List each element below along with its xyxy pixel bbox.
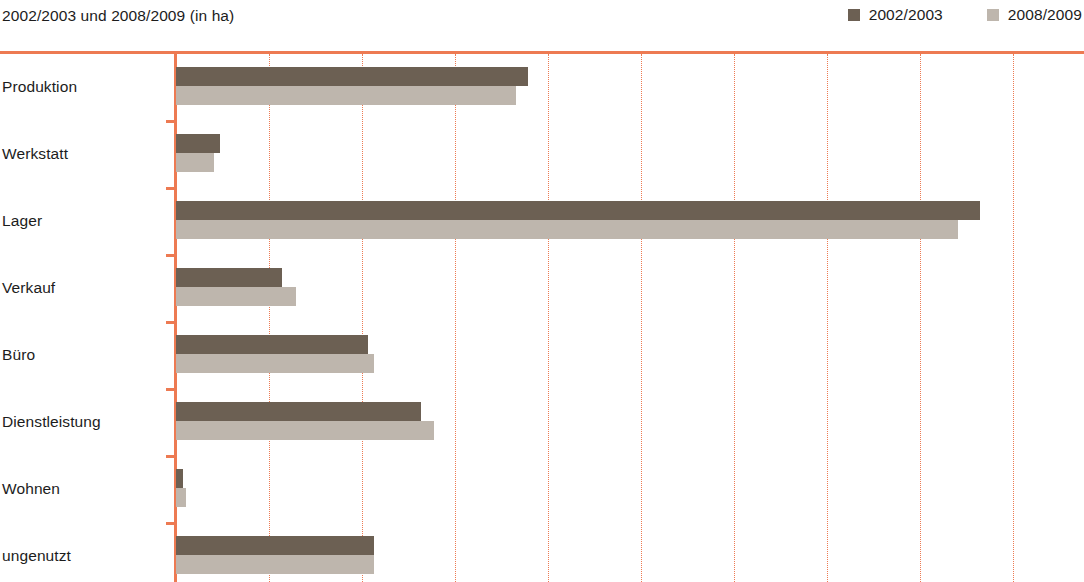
axis-tick [166,522,177,525]
legend-label: 2008/2009 [1008,6,1082,24]
category-label-produktion: Produktion [2,78,77,96]
gridline-8 [920,54,921,582]
gridline-4 [548,54,549,582]
legend-item-2008-2009[interactable]: 2008/2009 [987,6,1082,24]
bar-lager-2008[interactable] [176,220,958,239]
legend-label: 2002/2003 [869,6,943,24]
category-label-wohnen: Wohnen [2,480,60,498]
gridline-9 [1013,54,1014,582]
chart-container: 2002/2003 und 2008/2009 (in ha) 2002/200… [0,0,1084,582]
gridline-7 [827,54,828,582]
axis-tick [166,254,177,257]
gridline-5 [641,54,642,582]
chart-legend: 2002/2003 2008/2009 [848,6,1082,24]
plot-area: Produktion Werkstatt Lager Verkauf Büro … [0,54,1084,582]
axis-tick [166,455,177,458]
bar-dienstleistung-2008[interactable] [176,421,434,440]
bar-dienstleistung-2002[interactable] [176,402,421,421]
page-title: 2002/2003 und 2008/2009 (in ha) [2,7,234,25]
legend-swatch-icon [987,9,999,21]
axis-tick [166,120,177,123]
chart-header: 2002/2003 und 2008/2009 (in ha) 2002/200… [0,0,1084,53]
bar-werkstatt-2008[interactable] [176,153,214,172]
bar-lager-2002[interactable] [176,201,980,220]
gridline-6 [734,54,735,582]
legend-swatch-icon [848,9,860,21]
category-label-verkauf: Verkauf [2,279,55,297]
bar-buero-2002[interactable] [176,335,368,354]
bar-wohnen-2002[interactable] [176,469,183,488]
bar-verkauf-2002[interactable] [176,268,282,287]
category-label-ungenutzt: ungenutzt [2,547,71,565]
gridline-2 [362,54,363,582]
category-label-lager: Lager [2,212,42,230]
bar-ungenutzt-2008[interactable] [176,555,374,574]
gridline-1 [269,54,270,582]
bar-werkstatt-2002[interactable] [176,134,220,153]
bar-buero-2008[interactable] [176,354,374,373]
bar-ungenutzt-2002[interactable] [176,536,374,555]
axis-tick [166,321,177,324]
axis-tick [166,388,177,391]
category-label-buero: Büro [2,346,35,364]
category-label-werkstatt: Werkstatt [2,145,68,163]
bar-produktion-2002[interactable] [176,67,528,86]
axis-tick [166,187,177,190]
bar-verkauf-2008[interactable] [176,287,296,306]
category-label-dienstleistung: Dienstleistung [2,413,101,431]
bar-produktion-2008[interactable] [176,86,516,105]
gridline-3 [455,54,456,582]
legend-item-2002-2003[interactable]: 2002/2003 [848,6,943,24]
bar-wohnen-2008[interactable] [176,488,186,507]
